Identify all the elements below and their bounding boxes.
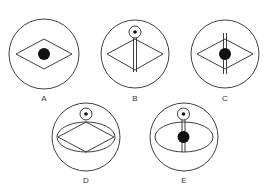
diamond: [107, 39, 163, 70]
figure-d: D: [52, 103, 120, 185]
figure-c: C: [191, 20, 259, 103]
figure-label-a: A: [41, 94, 47, 103]
figure-label-b: B: [132, 94, 137, 103]
diamond: [58, 122, 114, 152]
small-dot: [182, 112, 186, 116]
small-dot: [133, 30, 137, 34]
ellipse: [57, 122, 115, 152]
central-dot: [38, 48, 50, 60]
figure-a: A: [9, 19, 79, 103]
figure-label-c: C: [222, 94, 228, 103]
figure-e: E: [150, 103, 218, 185]
figure-label-e: E: [181, 176, 186, 185]
central-dot: [219, 48, 231, 60]
figure-label-d: D: [83, 176, 89, 185]
diagram-canvas: A B C D E: [0, 0, 269, 189]
small-dot: [84, 112, 88, 116]
central-dot: [178, 131, 190, 143]
figure-b: B: [101, 20, 169, 103]
